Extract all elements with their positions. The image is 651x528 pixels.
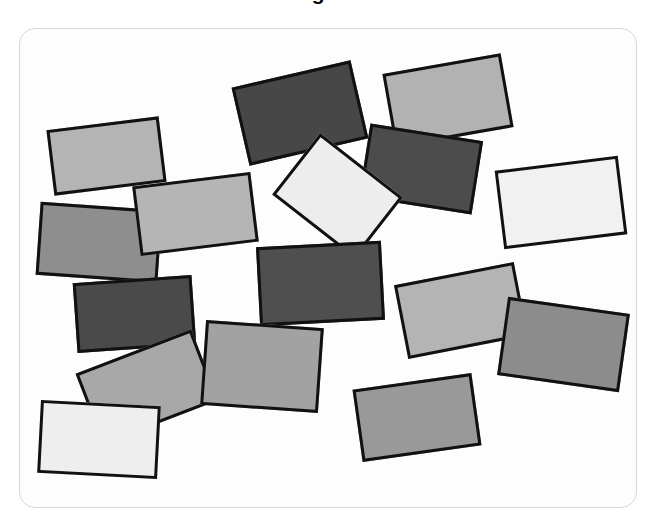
figure-root: Figure <box>0 0 651 528</box>
scatter-rectangle <box>495 156 628 250</box>
scatter-rectangle <box>256 241 385 326</box>
scatter-rectangle <box>232 60 369 165</box>
scatter-panel <box>19 28 637 508</box>
caption-fragment: Figure <box>0 0 651 14</box>
rectangle-shape-layer <box>20 29 636 507</box>
scatter-rectangle <box>37 400 161 479</box>
scatter-rectangle <box>132 172 259 256</box>
scatter-rectangle <box>497 297 630 392</box>
scatter-rectangle <box>200 320 324 413</box>
caption-text: Figure <box>0 0 651 5</box>
scatter-rectangle <box>353 373 482 462</box>
